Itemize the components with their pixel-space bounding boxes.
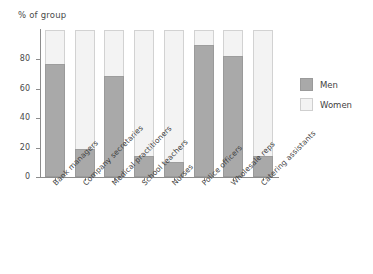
bar-segment-women[interactable] [75, 30, 95, 149]
bar-segment-women[interactable] [223, 30, 243, 56]
y-tick-mark [36, 177, 40, 178]
bar-segment-women[interactable] [194, 30, 214, 45]
bar-segment-women[interactable] [45, 30, 65, 64]
y-axis-title: % of group [18, 10, 66, 20]
y-tick-label: 0 [8, 172, 30, 181]
legend-label-men: Men [320, 80, 338, 90]
y-tick-label: 80 [8, 54, 30, 63]
bar-segment-women[interactable] [104, 30, 124, 76]
stacked-bar-chart: % of group 020406080 Bank managersCompan… [0, 0, 373, 274]
legend-label-women: Women [320, 100, 352, 110]
bar-group[interactable] [45, 30, 65, 177]
chart-legend: Men Women [300, 78, 352, 118]
women-swatch-icon [300, 98, 313, 111]
y-tick-label: 40 [8, 113, 30, 122]
bar-group[interactable] [194, 30, 214, 177]
bar-segment-men[interactable] [45, 64, 65, 177]
legend-item-women[interactable]: Women [300, 98, 352, 111]
bar-segment-men[interactable] [194, 45, 214, 177]
bar-segment-women[interactable] [253, 30, 273, 156]
y-tick-label: 60 [8, 84, 30, 93]
y-tick-label: 20 [8, 143, 30, 152]
men-swatch-icon [300, 78, 313, 91]
legend-item-men[interactable]: Men [300, 78, 352, 91]
